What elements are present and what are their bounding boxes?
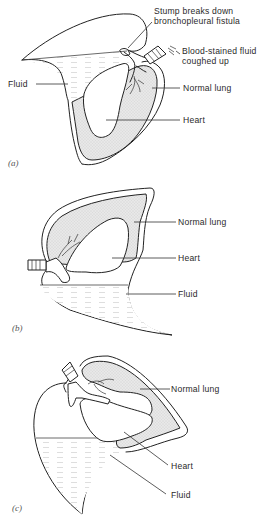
bronchial-stump-b bbox=[28, 260, 46, 270]
fluid-region-b bbox=[40, 285, 170, 334]
bronchopleural-fistula-diagram: Stump breaks down bronchopleural fistula… bbox=[0, 0, 267, 519]
leader-blood-a bbox=[176, 51, 180, 54]
label-normal-lung-c: Normal lung bbox=[171, 384, 220, 394]
label-normal-lung-b: Normal lung bbox=[178, 217, 227, 227]
label-fluid-a: Fluid bbox=[8, 79, 28, 89]
label-heart-b: Heart bbox=[178, 253, 200, 263]
label-heart-c: Heart bbox=[171, 461, 193, 471]
panel-a: Stump breaks down bronchopleural fistula… bbox=[8, 6, 257, 168]
label-normal-lung-a: Normal lung bbox=[183, 83, 232, 93]
panel-label-c: (c) bbox=[12, 503, 22, 513]
label-stump: Stump breaks down bbox=[154, 6, 233, 16]
label-bronchopleural-fistula: bronchopleural fistula bbox=[154, 16, 240, 26]
label-heart-a: Heart bbox=[183, 115, 205, 125]
fluid-region-c bbox=[36, 438, 126, 514]
panel-c: Normal lung Heart Fluid (c) bbox=[12, 356, 220, 514]
leader-fluid-c bbox=[110, 455, 166, 494]
panel-b: Normal lung Heart Fluid (b) bbox=[12, 188, 227, 335]
empty-hemithorax-outline-a bbox=[22, 14, 147, 60]
trachea-c bbox=[62, 362, 78, 382]
cough-spray-icon bbox=[168, 46, 176, 55]
label-coughed-up: coughed up bbox=[182, 56, 229, 66]
leader-stump-a bbox=[128, 22, 152, 48]
label-blood-stained-fluid: Blood-stained fluid bbox=[182, 46, 257, 56]
label-fluid-b: Fluid bbox=[178, 289, 198, 299]
panel-label-a: (a) bbox=[8, 158, 19, 168]
panel-label-b: (b) bbox=[12, 323, 23, 333]
label-fluid-c: Fluid bbox=[171, 490, 191, 500]
